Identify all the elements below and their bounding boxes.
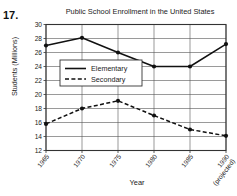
x-tick-label-group: 1965 [36,153,51,169]
data-point-secondary [152,113,156,117]
y-tick-label: 26 [35,49,43,56]
data-point-secondary [80,106,84,110]
legend-label-secondary: Secondary [91,75,126,84]
y-tick-label: 30 [35,21,43,28]
y-tick-label: 22 [35,77,43,84]
data-point-elementary [116,50,120,54]
data-point-elementary [188,64,192,68]
x-tick-labels: 196519701975198019851990(projected) [36,153,237,188]
x-tick-label-group: 1970 [72,153,87,169]
chart-legend: ElementarySecondary [60,60,142,86]
data-point-elementary [44,43,48,47]
y-tick-label: 18 [35,105,43,112]
x-tick-label: 1970 [72,153,87,169]
x-tick-label: 1975 [108,153,123,169]
data-point-secondary [188,127,192,131]
data-point-elementary [152,64,156,68]
y-tick-label: 16 [35,119,43,126]
y-tick-label: 14 [35,133,43,140]
data-point-elementary [80,36,84,40]
x-tick-label-group: 1975 [108,153,123,169]
y-tick-labels: 12141618202224262830 [35,21,43,154]
x-tick-label: 1985 [180,153,195,169]
series-line-secondary [46,101,226,136]
x-tick-label: 1965 [36,153,51,169]
enrollment-line-chart: 12141618202224262830 1965197019751980198… [0,0,237,196]
x-tick-label-group: 1985 [180,153,195,169]
data-point-secondary [44,122,48,126]
data-point-elementary [224,42,228,46]
legend-label-elementary: Elementary [91,64,128,73]
x-tick-label-group: 1980 [144,153,159,169]
y-tick-label: 12 [35,147,43,154]
data-point-secondary [116,99,120,103]
data-point-secondary [224,134,228,138]
x-tick-label-group: 1990(projected) [205,153,237,188]
x-tick-label: 1980 [144,153,159,169]
y-tick-label: 20 [35,91,43,98]
grid-layer [44,25,227,154]
y-tick-label: 28 [35,35,43,42]
y-tick-label: 24 [35,63,43,70]
